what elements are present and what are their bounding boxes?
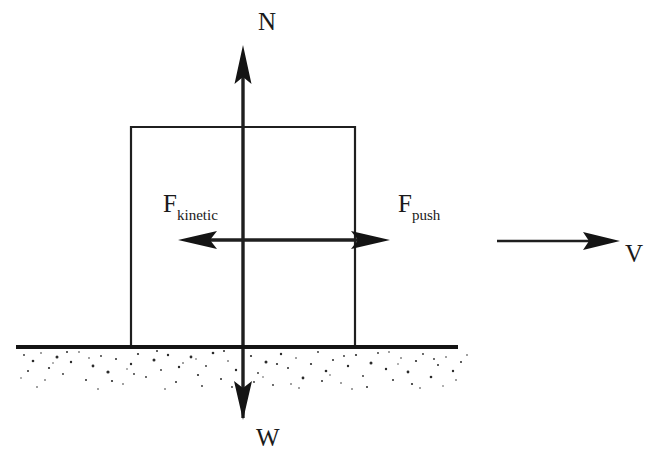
- free-body-diagram: N W F kinetic F push V: [0, 0, 659, 475]
- push-force-label-base: F: [398, 190, 412, 217]
- diagram-canvas: N W F kinetic F push V: [0, 0, 659, 475]
- kinetic-friction-label-base: F: [163, 190, 177, 217]
- velocity-label: V: [625, 240, 643, 267]
- velocity-arrow-group: [497, 232, 620, 250]
- push-force-label: F push: [398, 190, 441, 223]
- kinetic-friction-label: F kinetic: [163, 190, 218, 223]
- horizontal-force-arrows: [178, 231, 390, 249]
- kinetic-friction-label-subscript: kinetic: [177, 207, 218, 223]
- normal-force-label: N: [258, 8, 276, 35]
- vertical-force-arrows: [234, 45, 252, 420]
- weight-force-label: W: [256, 424, 280, 451]
- push-force-label-subscript: push: [412, 207, 441, 223]
